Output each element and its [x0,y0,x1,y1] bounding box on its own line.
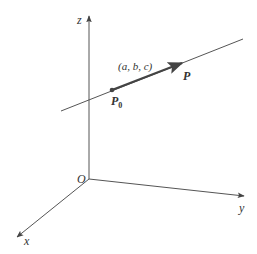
x-axis [17,179,89,237]
line-in-space-diagram: z y x O (a, b, c) P P0 [0,0,257,254]
x-axis-label: x [23,234,30,248]
point-p-label: P [183,69,191,83]
origin-label: O [77,172,86,186]
z-axis-label: z [76,13,82,27]
y-axis-label: y [238,201,245,215]
y-axis [89,179,244,196]
point-p0-dot [110,88,115,93]
vector-label: (a, b, c) [118,60,153,73]
point-p0-label: P0 [111,94,122,110]
